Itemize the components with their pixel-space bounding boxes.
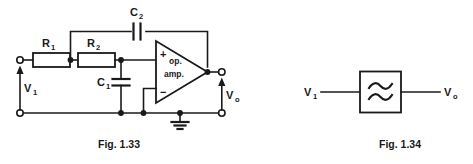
r2-label: R (87, 37, 95, 49)
input-terminal-top (17, 57, 23, 63)
filter-block (360, 72, 401, 113)
fig134-vo-label: V (444, 86, 452, 98)
capacitor-c1 (113, 60, 130, 113)
figure-sheet: C 2 R 1 R 2 C 1 + − (0, 0, 473, 164)
r2-label-subscript: 2 (96, 43, 100, 52)
v1-label: V (24, 82, 32, 94)
capacitor-c2 (134, 24, 141, 40)
output-terminal-top (219, 69, 225, 75)
vo-label-subscript: o (235, 95, 240, 104)
fig134-v1-label-subscript: 1 (313, 92, 317, 101)
op-amp-plus-sign: + (160, 48, 166, 60)
r1-label-subscript: 1 (51, 43, 55, 52)
r1-label: R (42, 37, 50, 49)
ground-symbol (172, 113, 189, 129)
v1-arrowhead (16, 66, 23, 75)
figure-1-34-caption: Fig. 1.34 (379, 138, 421, 150)
resistor-r1-body (33, 53, 70, 67)
node-bottom-inverting (141, 110, 147, 116)
c2-label-subscript: 2 (139, 12, 143, 21)
node-bottom-c1 (118, 110, 124, 116)
vo-arrow-group (218, 78, 225, 111)
vo-arrowhead (218, 78, 225, 87)
op-amp-label-line1: op. (169, 56, 182, 66)
op-amp-minus-sign: − (160, 86, 166, 98)
v1-label-subscript: 1 (33, 88, 37, 97)
op-amp-label-line2: amp. (164, 69, 184, 79)
v1-arrow-group (16, 66, 23, 111)
op-amp: + − op. amp. (156, 41, 208, 103)
filter-block-body (360, 72, 401, 113)
c1-label-subscript: 1 (106, 82, 110, 91)
c2-label: C (130, 6, 138, 18)
inverting-input-wire (144, 89, 157, 114)
resistor-r2-body (78, 53, 115, 67)
c1-label: C (97, 76, 105, 88)
fig134-v1-label: V (304, 86, 312, 98)
figure-1-34-diagram: V 1 V o (273, 0, 473, 164)
fig134-vo-label-subscript: o (453, 92, 458, 101)
figure-1-33-caption: Fig. 1.33 (98, 138, 140, 150)
vo-label: V (226, 89, 234, 101)
